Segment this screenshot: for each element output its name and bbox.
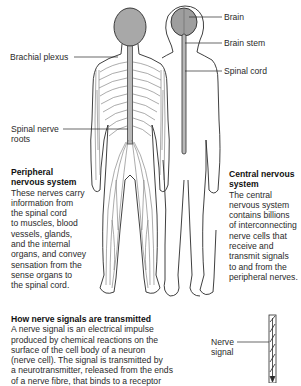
label-brachial-plexus: Brachial plexus xyxy=(10,52,68,62)
peripheral-nervous-system-block: Peripheral nervous system These nerves c… xyxy=(11,167,111,291)
peripheral-description: These nerves carry information from the … xyxy=(11,188,111,291)
central-title: Central nervous system xyxy=(229,169,301,190)
nerve-transmission-block: How nerve signals are transmitted A nerv… xyxy=(11,314,211,386)
nerve-fibre-illustration xyxy=(269,315,276,383)
central-nervous-system-block: Central nervous system The central nervo… xyxy=(229,169,301,282)
peripheral-title: Peripheral nervous system xyxy=(11,167,111,188)
central-description: The central nervous system contains bill… xyxy=(229,190,301,283)
central-body-figure xyxy=(162,6,220,296)
transmission-description: A nerve signal is an electrical impulse … xyxy=(11,324,211,386)
label-brain-stem: Brain stem xyxy=(224,38,265,48)
label-spinal-nerve-roots: Spinal nerve roots xyxy=(11,124,59,144)
label-spinal-cord: Spinal cord xyxy=(224,66,267,76)
transmission-title: How nerve signals are transmitted xyxy=(11,314,211,324)
label-nerve-signal: Nerve signal xyxy=(211,337,234,357)
label-brain: Brain xyxy=(224,12,244,22)
